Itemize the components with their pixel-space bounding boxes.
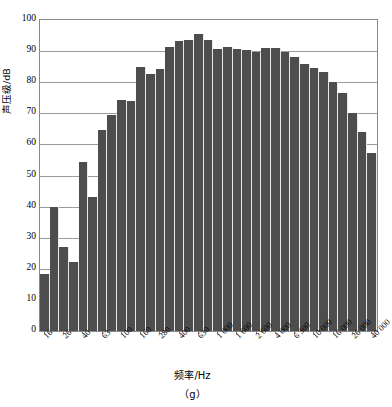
bar-series xyxy=(40,20,377,331)
bar xyxy=(107,115,117,331)
bar xyxy=(50,207,60,331)
y-tick-label: 100 xyxy=(14,14,36,23)
x-axis-title: 频率/Hz xyxy=(0,367,385,382)
bar xyxy=(79,162,89,331)
bar xyxy=(175,41,185,331)
y-tick-label: 80 xyxy=(14,76,36,85)
bar xyxy=(88,197,98,331)
bar xyxy=(310,68,320,331)
y-tick-label: 50 xyxy=(14,170,36,179)
bar xyxy=(213,49,223,331)
bar xyxy=(223,47,233,331)
bar xyxy=(117,100,127,331)
bar xyxy=(367,153,377,331)
bar xyxy=(98,130,108,331)
bar xyxy=(233,49,243,331)
y-tick-label: 90 xyxy=(14,45,36,54)
bar xyxy=(165,47,175,331)
bar xyxy=(184,40,194,331)
y-axis-ticks: 0102030405060708090100 xyxy=(12,0,36,407)
bar xyxy=(146,74,156,331)
x-axis-ticks: 162640631001602804006301 0001 6002 6004 … xyxy=(39,331,376,371)
bar xyxy=(319,72,329,331)
bar xyxy=(40,274,50,331)
bar xyxy=(252,52,262,331)
bar xyxy=(59,247,69,331)
y-tick-label: 0 xyxy=(14,325,36,334)
bar xyxy=(300,64,310,331)
bar xyxy=(127,101,137,331)
bar xyxy=(348,113,358,331)
bar xyxy=(290,57,300,331)
bar xyxy=(69,262,79,331)
figure-caption: （g） xyxy=(0,386,385,401)
plot-area xyxy=(39,19,378,332)
bar xyxy=(242,50,252,331)
bar xyxy=(194,34,204,331)
bar xyxy=(204,40,214,331)
y-tick-label: 70 xyxy=(14,107,36,116)
bar xyxy=(271,48,281,331)
bar xyxy=(358,132,368,331)
y-tick-label: 60 xyxy=(14,138,36,147)
bar xyxy=(136,67,146,331)
bar xyxy=(281,52,291,331)
bar xyxy=(329,82,339,331)
bar xyxy=(156,69,166,331)
bar xyxy=(338,93,348,331)
y-tick-label: 10 xyxy=(14,294,36,303)
y-tick-label: 30 xyxy=(14,232,36,241)
y-tick-label: 40 xyxy=(14,201,36,210)
bar xyxy=(261,48,271,331)
y-tick-label: 20 xyxy=(14,263,36,272)
